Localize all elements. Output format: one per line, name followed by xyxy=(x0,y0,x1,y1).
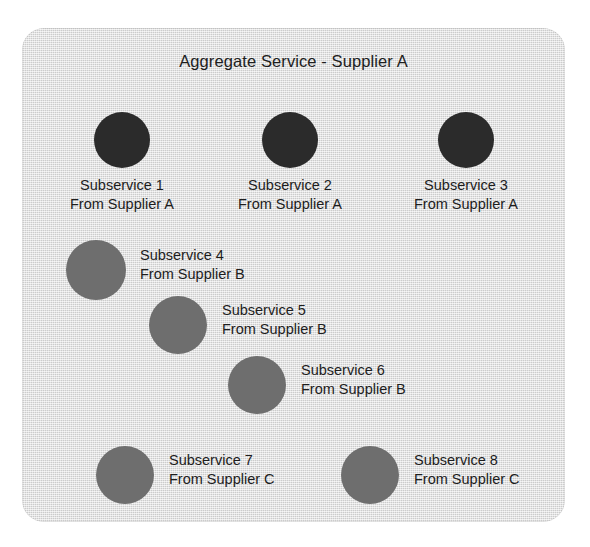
label-subservice-6: Subservice 6From Supplier B xyxy=(301,361,501,399)
label-subservice-5: Subservice 5From Supplier B xyxy=(222,301,422,339)
label-name-subservice-3: Subservice 3 xyxy=(371,176,561,195)
label-name-subservice-6: Subservice 6 xyxy=(301,361,501,380)
label-subservice-7: Subservice 7From Supplier C xyxy=(169,451,369,489)
circle-subservice-5 xyxy=(149,296,207,354)
label-supplier-subservice-2: From Supplier A xyxy=(195,195,385,214)
label-subservice-3: Subservice 3From Supplier A xyxy=(371,176,561,214)
label-name-subservice-8: Subservice 8 xyxy=(414,451,590,470)
label-name-subservice-1: Subservice 1 xyxy=(27,176,217,195)
circle-subservice-1 xyxy=(94,112,150,168)
label-subservice-4: Subservice 4From Supplier B xyxy=(140,246,340,284)
label-name-subservice-5: Subservice 5 xyxy=(222,301,422,320)
aggregate-service-diagram: Aggregate Service - Supplier A Subservic… xyxy=(0,0,590,547)
page-title: Aggregate Service - Supplier A xyxy=(22,52,565,71)
circle-subservice-4 xyxy=(66,240,126,300)
circle-subservice-7 xyxy=(96,446,154,504)
label-subservice-2: Subservice 2From Supplier A xyxy=(195,176,385,214)
circle-subservice-2 xyxy=(262,112,318,168)
label-supplier-subservice-1: From Supplier A xyxy=(27,195,217,214)
aggregate-service-panel: Aggregate Service - Supplier A Subservic… xyxy=(22,28,565,522)
label-name-subservice-7: Subservice 7 xyxy=(169,451,369,470)
circle-subservice-6 xyxy=(228,356,286,414)
label-supplier-subservice-5: From Supplier B xyxy=(222,320,422,339)
label-supplier-subservice-7: From Supplier C xyxy=(169,470,369,489)
label-name-subservice-4: Subservice 4 xyxy=(140,246,340,265)
label-subservice-8: Subservice 8From Supplier C xyxy=(414,451,590,489)
label-supplier-subservice-8: From Supplier C xyxy=(414,470,590,489)
circle-subservice-8 xyxy=(341,446,399,504)
label-supplier-subservice-4: From Supplier B xyxy=(140,265,340,284)
label-supplier-subservice-3: From Supplier A xyxy=(371,195,561,214)
label-supplier-subservice-6: From Supplier B xyxy=(301,380,501,399)
label-name-subservice-2: Subservice 2 xyxy=(195,176,385,195)
circle-subservice-3 xyxy=(438,112,494,168)
label-subservice-1: Subservice 1From Supplier A xyxy=(27,176,217,214)
